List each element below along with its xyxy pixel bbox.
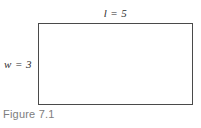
- width-dimension-label: w = 3: [0, 58, 36, 70]
- length-dimension-label: l = 5: [38, 7, 193, 19]
- figure-caption: Figure 7.1: [3, 108, 55, 120]
- figure-container: l = 5 w = 3 Figure 7.1: [0, 0, 201, 128]
- rectangle-shape: [38, 23, 193, 105]
